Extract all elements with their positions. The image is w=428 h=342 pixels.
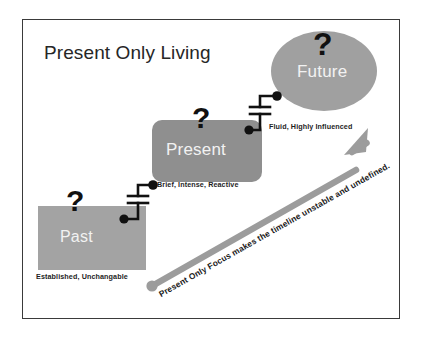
node-caption-future: Fluid, Highly Influenced	[269, 122, 352, 131]
question-mark-icon-past: ?	[66, 186, 84, 216]
question-mark-icon-future: ?	[313, 28, 333, 60]
node-label-future: Future	[297, 62, 347, 82]
question-mark-icon-present: ?	[192, 103, 210, 133]
node-label-past: Past	[60, 228, 93, 246]
page-title: Present Only Living	[44, 42, 211, 64]
node-caption-present: Brief, Intense, Reactive	[157, 180, 239, 189]
connector-terminal-past	[119, 214, 128, 223]
node-label-present: Present	[166, 140, 226, 160]
connector-terminal-future	[272, 91, 282, 101]
connector-terminal-present-right	[244, 125, 253, 134]
node-caption-past: Established, Unchangable	[36, 272, 128, 281]
diagram-canvas: Present Only Living ? ? ? Past Present F…	[0, 0, 428, 342]
